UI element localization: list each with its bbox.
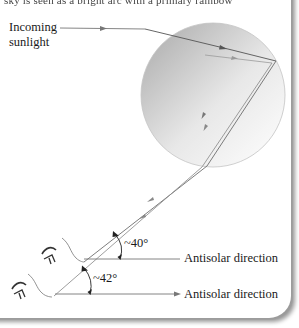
- antisolar-label-upper: Antisolar direction: [184, 252, 278, 266]
- antisolar-direction-lower-arrow: [55, 292, 181, 297]
- incoming-sunlight-label-line2: sunlight: [9, 36, 49, 50]
- raindrop: [141, 23, 285, 167]
- angle-label-40: ~40°: [124, 237, 148, 251]
- angle-arc-40: [113, 231, 123, 260]
- incoming-sunlight-label-line1: Incoming: [9, 21, 57, 35]
- incoming-sunlight-ray: [60, 26, 145, 31]
- angle-label-42: ~42°: [93, 272, 117, 286]
- eye-icon: [42, 238, 84, 264]
- antisolar-label-lower: Antisolar direction: [184, 288, 278, 302]
- eye-icon: [12, 274, 52, 299]
- angle-arc-42: [82, 266, 93, 296]
